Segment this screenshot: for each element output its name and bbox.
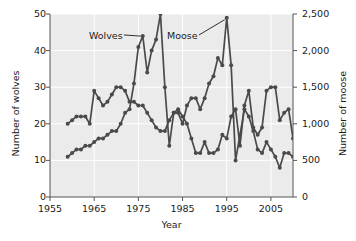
data-point-wolves xyxy=(291,136,293,140)
data-point-moose xyxy=(114,85,118,89)
data-point-moose xyxy=(242,107,246,111)
data-point-wolves xyxy=(141,34,145,38)
data-point-moose xyxy=(123,89,127,93)
data-point-moose xyxy=(194,96,198,100)
data-point-moose xyxy=(189,96,193,100)
data-point-wolves xyxy=(269,85,273,89)
data-point-wolves xyxy=(70,151,74,155)
data-point-wolves xyxy=(203,140,207,144)
y-tick-label-left: 0 xyxy=(6,192,46,202)
data-point-moose xyxy=(211,74,215,78)
data-point-wolves xyxy=(83,144,87,148)
y-tick-label-left: 50 xyxy=(6,9,46,19)
data-point-moose xyxy=(119,85,123,89)
data-point-moose xyxy=(238,133,242,137)
data-point-moose xyxy=(110,93,114,97)
data-point-wolves xyxy=(260,125,264,129)
data-point-moose xyxy=(97,96,101,100)
data-point-wolves xyxy=(66,155,70,159)
data-point-moose xyxy=(256,147,260,151)
data-point-moose xyxy=(101,104,105,108)
data-point-moose xyxy=(141,104,145,108)
data-point-moose xyxy=(136,104,140,108)
x-tick-label: 1955 xyxy=(30,204,70,214)
data-point-wolves xyxy=(287,107,291,111)
data-point-wolves xyxy=(207,151,211,155)
data-point-moose xyxy=(105,100,109,104)
data-point-wolves xyxy=(189,136,193,140)
series-annotation-wolves: Wolves xyxy=(89,30,123,41)
data-point-wolves xyxy=(158,14,162,16)
y-tick-label-left: 30 xyxy=(6,82,46,92)
data-point-moose xyxy=(88,122,92,126)
y-tick-label-right: 2,000 xyxy=(302,46,342,56)
data-point-wolves xyxy=(79,147,83,151)
data-point-wolves xyxy=(185,122,189,126)
x-tick-label: 1965 xyxy=(74,204,114,214)
data-point-moose xyxy=(158,129,162,133)
data-point-moose xyxy=(203,96,207,100)
data-point-moose xyxy=(251,129,255,133)
x-tick-label: 2005 xyxy=(251,204,291,214)
x-tick-label: 1995 xyxy=(207,204,247,214)
data-point-wolves xyxy=(282,111,286,115)
data-point-wolves xyxy=(154,38,158,42)
data-point-wolves xyxy=(247,89,251,93)
data-point-moose xyxy=(79,114,83,118)
data-point-wolves xyxy=(75,147,79,151)
data-point-wolves xyxy=(97,136,101,140)
data-point-wolves xyxy=(211,151,215,155)
data-point-wolves xyxy=(264,89,268,93)
data-point-moose xyxy=(260,151,264,155)
data-point-moose xyxy=(66,122,70,126)
y-tick-label-left: 20 xyxy=(6,119,46,129)
data-point-wolves xyxy=(150,49,154,53)
data-point-moose xyxy=(167,118,171,122)
data-point-wolves xyxy=(105,133,109,137)
data-point-moose xyxy=(176,111,180,115)
data-point-wolves xyxy=(225,136,229,140)
data-point-moose xyxy=(145,111,149,115)
data-point-moose xyxy=(269,147,273,151)
data-point-wolves xyxy=(278,118,282,122)
x-tick-label: 1975 xyxy=(118,204,158,214)
data-point-wolves xyxy=(242,104,246,108)
data-point-wolves xyxy=(176,107,180,111)
y-tick-label-left: 40 xyxy=(6,46,46,56)
data-point-wolves xyxy=(198,151,202,155)
data-point-wolves xyxy=(229,114,233,118)
plot-canvas xyxy=(50,14,293,197)
data-point-wolves xyxy=(92,140,96,144)
plot-area xyxy=(50,14,293,197)
data-point-moose xyxy=(128,100,132,104)
data-point-moose xyxy=(154,125,158,129)
data-point-moose xyxy=(132,100,136,104)
y-tick-label-left: 10 xyxy=(6,155,46,165)
data-point-wolves xyxy=(167,144,171,148)
data-point-wolves xyxy=(216,147,220,151)
data-point-moose xyxy=(83,114,87,118)
x-tick-label: 1985 xyxy=(163,204,203,214)
y-tick-label-right: 500 xyxy=(302,155,342,165)
data-point-moose xyxy=(225,16,229,20)
data-point-moose xyxy=(92,89,96,93)
data-point-moose xyxy=(229,63,233,67)
y-tick-label-right: 1,500 xyxy=(302,82,342,92)
data-point-wolves xyxy=(132,82,136,86)
data-point-moose xyxy=(273,155,277,159)
data-point-wolves xyxy=(145,71,149,75)
data-point-wolves xyxy=(220,133,224,137)
data-point-moose xyxy=(216,56,220,60)
data-point-moose xyxy=(198,107,202,111)
data-point-wolves xyxy=(256,133,260,137)
data-point-moose xyxy=(220,63,224,67)
data-point-moose xyxy=(150,118,154,122)
data-point-wolves xyxy=(88,144,92,148)
series-annotation-moose: Moose xyxy=(167,30,198,41)
data-point-wolves xyxy=(110,129,114,133)
data-point-wolves xyxy=(194,151,198,155)
data-point-moose xyxy=(264,140,268,144)
wolf-moose-population-chart: Number of wolves Number of moose Year 01… xyxy=(0,0,356,241)
y-tick-label-right: 1,000 xyxy=(302,119,342,129)
data-point-moose xyxy=(207,82,211,86)
